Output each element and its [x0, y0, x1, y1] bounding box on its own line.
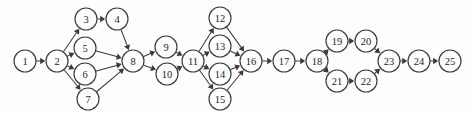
edge-arrowhead — [40, 58, 45, 64]
node-label: 4 — [114, 14, 120, 25]
edge-arrowhead — [116, 54, 122, 60]
graph-node-9[interactable]: 9 — [155, 36, 177, 58]
graph-edge — [144, 54, 151, 57]
graph-node-6[interactable]: 6 — [74, 63, 96, 85]
graph-node-11[interactable]: 11 — [182, 50, 204, 72]
node-label: 3 — [83, 14, 88, 25]
graph-edge — [96, 51, 117, 57]
graph-node-8[interactable]: 8 — [122, 50, 144, 72]
graph-node-13[interactable]: 13 — [209, 35, 231, 57]
node-label: 13 — [215, 41, 226, 52]
node-label: 25 — [445, 56, 456, 67]
edge-arrowhead — [402, 58, 407, 64]
node-label: 9 — [163, 42, 168, 53]
edge-layer — [37, 16, 439, 92]
graph-node-16[interactable]: 16 — [240, 50, 262, 72]
graph-node-2[interactable]: 2 — [46, 50, 68, 72]
graph-node-7[interactable]: 7 — [77, 88, 99, 110]
graph-edge — [96, 65, 117, 71]
node-label: 10 — [162, 69, 173, 80]
graph-node-15[interactable]: 15 — [209, 88, 231, 110]
edge-arrowhead — [116, 62, 122, 68]
edge-arrowhead — [349, 38, 354, 44]
node-label: 16 — [246, 56, 257, 67]
graph-node-19[interactable]: 19 — [326, 30, 348, 52]
node-label: 12 — [215, 13, 226, 24]
graph-node-12[interactable]: 12 — [209, 7, 231, 29]
graph-node-23[interactable]: 23 — [378, 50, 400, 72]
node-label: 8 — [130, 56, 135, 67]
graph-edge — [176, 52, 178, 53]
node-label: 6 — [82, 69, 87, 80]
node-label: 23 — [384, 56, 395, 67]
edge-arrowhead — [74, 29, 79, 35]
graph-edge — [203, 54, 205, 55]
node-label: 22 — [361, 76, 372, 87]
node-label: 7 — [85, 94, 90, 105]
edge-arrowhead — [300, 58, 305, 64]
graph-edge — [231, 68, 236, 70]
graph-figure: 1234567891011121314151617181920212223242… — [0, 0, 471, 115]
node-label: 14 — [215, 69, 226, 80]
graph-edge — [144, 65, 151, 68]
edge-arrowhead — [239, 46, 245, 52]
graph-node-10[interactable]: 10 — [156, 63, 178, 85]
graph-edge — [68, 55, 70, 56]
node-label: 1 — [22, 56, 27, 67]
graph-node-22[interactable]: 22 — [355, 70, 377, 92]
edge-arrowhead — [433, 58, 438, 64]
graph-edge — [68, 66, 70, 67]
node-layer: 1234567891011121314151617181920212223242… — [14, 7, 461, 110]
graph-edge — [375, 49, 377, 50]
edge-arrowhead — [238, 70, 244, 76]
edge-arrowhead — [75, 84, 81, 90]
node-label: 20 — [361, 36, 372, 47]
graph-canvas: 1234567891011121314151617181920212223242… — [0, 0, 471, 115]
node-label: 21 — [332, 76, 343, 87]
edge-arrowhead — [349, 78, 354, 84]
edge-arrowhead — [208, 83, 214, 89]
graph-edge — [121, 30, 127, 45]
edge-arrowhead — [100, 16, 105, 22]
graph-edge — [230, 51, 235, 54]
graph-node-1[interactable]: 1 — [14, 50, 36, 72]
node-label: 19 — [332, 36, 343, 47]
graph-node-24[interactable]: 24 — [408, 50, 430, 72]
graph-edge — [203, 66, 204, 67]
node-label: 18 — [312, 56, 323, 67]
graph-node-4[interactable]: 4 — [106, 8, 128, 30]
node-label: 5 — [82, 43, 87, 54]
graph-node-17[interactable]: 17 — [273, 50, 295, 72]
edge-arrowhead — [267, 58, 272, 64]
node-label: 11 — [188, 56, 198, 67]
graph-node-25[interactable]: 25 — [439, 50, 461, 72]
graph-node-5[interactable]: 5 — [74, 37, 96, 59]
node-label: 2 — [54, 56, 59, 67]
graph-edge — [97, 72, 120, 92]
graph-node-20[interactable]: 20 — [355, 30, 377, 52]
graph-node-3[interactable]: 3 — [75, 8, 97, 30]
graph-edge — [375, 72, 377, 73]
graph-node-18[interactable]: 18 — [306, 50, 328, 72]
node-label: 17 — [279, 56, 290, 67]
graph-node-14[interactable]: 14 — [209, 63, 231, 85]
node-label: 24 — [414, 56, 425, 67]
node-label: 15 — [215, 94, 226, 105]
graph-node-21[interactable]: 21 — [326, 70, 348, 92]
